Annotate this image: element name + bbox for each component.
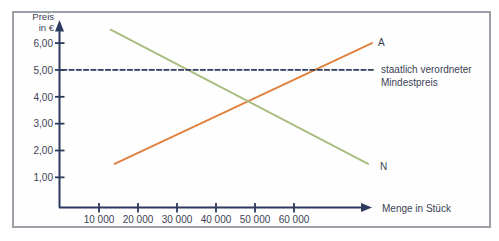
- y-tick-label: 5,00: [21, 65, 53, 76]
- y-tick-label: 6,00: [21, 38, 53, 49]
- chart-figure: Preis in € 6,00 5,00 4,00 3,00 2,00 1,00…: [0, 0, 499, 241]
- demand-line-label: N: [380, 161, 387, 172]
- y-tick-label: 1,00: [21, 172, 53, 183]
- x-tick-label: 60 000: [271, 214, 317, 225]
- supply-line-label: A: [378, 37, 385, 48]
- min-price-label: staatlich verordneter Mindestpreis: [381, 64, 491, 89]
- x-axis-title: Menge in Stück: [382, 203, 451, 214]
- y-tick-label: 2,00: [21, 145, 53, 156]
- y-axis-title: Preis in €: [8, 12, 54, 33]
- y-tick-label: 3,00: [21, 118, 53, 129]
- y-tick-label: 4,00: [21, 92, 53, 103]
